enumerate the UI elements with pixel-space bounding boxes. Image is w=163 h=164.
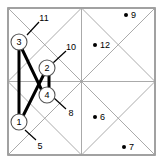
point-6-label: 6: [100, 112, 105, 122]
node-4-label: 4: [44, 90, 49, 100]
point-7-label: 7: [129, 142, 134, 152]
node-1-label: 1: [16, 117, 21, 127]
node-1[interactable]: 1: [11, 114, 27, 130]
point-9-label: 9: [131, 10, 136, 20]
node-3[interactable]: 3: [11, 34, 27, 50]
node-2[interactable]: 2: [39, 60, 55, 76]
callout-8-label: 8: [68, 108, 73, 118]
grid-graph-figure: 1 3 2 4 9 12: [0, 0, 163, 164]
callout-5-label: 5: [37, 141, 42, 151]
node-3-label: 3: [16, 37, 21, 47]
node-2-label: 2: [44, 63, 49, 73]
callout-11-label: 11: [39, 13, 48, 23]
node-4[interactable]: 4: [39, 87, 55, 103]
callout-10-label: 10: [66, 42, 76, 52]
point-12-label: 12: [100, 40, 110, 50]
diagram-canvas: 1 3 2 4 9 12: [0, 0, 163, 164]
